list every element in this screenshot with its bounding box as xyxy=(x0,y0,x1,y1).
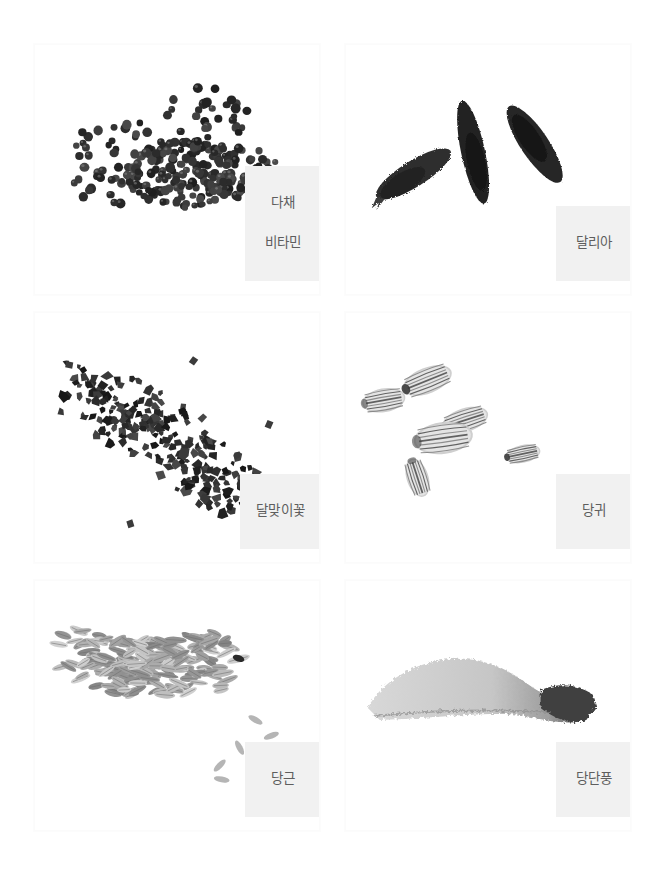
card-label-3: 달맞이꽃 xyxy=(240,474,319,549)
card-label-line: 당근 xyxy=(261,769,305,789)
card-label-line: 달리아 xyxy=(572,233,616,253)
card-label-2: 달리아 xyxy=(556,206,630,281)
gallery-card-3[interactable]: 달맞이꽃 xyxy=(34,312,320,563)
card-label-5: 당근 xyxy=(245,742,319,817)
card-label-line: 비타민 xyxy=(261,233,305,253)
card-label-4: 당귀 xyxy=(556,474,630,549)
card-label-6: 당단풍 xyxy=(556,742,630,817)
gallery-card-1[interactable]: 다채 비타민 xyxy=(34,44,320,295)
card-label-line: 당단풍 xyxy=(572,769,616,789)
gallery-card-2[interactable]: 달리아 xyxy=(345,44,631,295)
card-label-line: 달맞이꽃 xyxy=(256,501,305,521)
gallery-card-6[interactable]: 당단풍 xyxy=(345,580,631,831)
seed-image-grid: 다채 비타민 xyxy=(34,44,631,831)
gallery-card-5[interactable]: 당근 xyxy=(34,580,320,831)
card-label-line: 다채 xyxy=(261,193,305,213)
gallery-card-4[interactable]: 당귀 xyxy=(345,312,631,563)
card-label-line: 당귀 xyxy=(572,501,616,521)
card-label-1: 다채 비타민 xyxy=(245,166,319,281)
